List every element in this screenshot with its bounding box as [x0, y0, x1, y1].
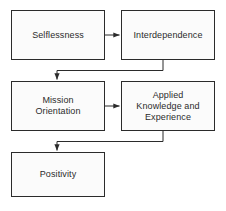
- node-applied-knowledge-and-experience[interactable]: Applied Knowledge and Experience: [121, 81, 215, 131]
- node-mission-orientation[interactable]: Mission Orientation: [11, 81, 105, 131]
- node-label: Selflessness: [29, 30, 87, 41]
- node-interdependence[interactable]: Interdependence: [121, 10, 215, 60]
- node-label: Applied Knowledge and Experience: [133, 90, 202, 123]
- connector-applied-knowledge-to-positivity: [57, 131, 163, 151]
- node-positivity[interactable]: Positivity: [11, 152, 105, 197]
- node-label: Positivity: [37, 169, 80, 180]
- node-label: Interdependence: [130, 30, 205, 41]
- node-label: Mission Orientation: [32, 95, 83, 117]
- node-selflessness[interactable]: Selflessness: [11, 10, 105, 60]
- flow-diagram: Selflessness Interdependence Mission Ori…: [0, 0, 226, 211]
- connector-interdependence-to-mission-orientation: [57, 60, 163, 80]
